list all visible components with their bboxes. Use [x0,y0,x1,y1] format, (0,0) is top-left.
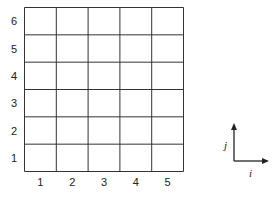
x-axis-labels: 12345 [37,176,170,188]
y-label: 2 [11,125,17,137]
i-arrowhead-icon [262,158,269,164]
x-label: 1 [37,176,43,188]
x-label: 5 [165,176,171,188]
y-label: 6 [11,15,17,27]
x-label: 2 [69,176,75,188]
y-label: 5 [11,43,17,55]
j-axis-label: j [222,139,227,151]
x-label: 4 [133,176,139,188]
i-axis-label: i [249,167,252,179]
x-label: 3 [101,176,107,188]
y-label: 1 [11,152,17,164]
j-arrowhead-icon [231,123,237,130]
grid [25,8,184,172]
grid-diagram: 12345 123456 j i [0,0,279,198]
ij-axes-indicator: j i [222,123,269,179]
y-label: 4 [11,70,17,82]
y-label: 3 [11,97,17,109]
y-axis-labels: 123456 [11,15,17,164]
